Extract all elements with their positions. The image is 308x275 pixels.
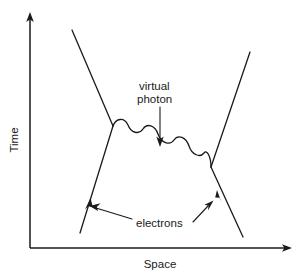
space-axis-label: Space — [144, 258, 177, 270]
electrons-annotation: electrons — [90, 201, 214, 230]
virtual-photon-line-group — [113, 119, 211, 167]
particle-lines-group — [72, 30, 250, 237]
electrons-leader-line-left — [96, 208, 132, 219]
virtual-photon-label-line2: photon — [137, 93, 172, 105]
fermion-direction-arrows — [85, 190, 222, 210]
electrons-label: electrons — [136, 217, 183, 229]
virtual-photon-wavy-line — [113, 119, 211, 167]
feynman-diagram-figure: virtual photon electrons Time Space — [0, 0, 308, 275]
time-axis-label: Time — [8, 127, 20, 152]
electron-line-outgoing-left — [80, 126, 113, 233]
electrons-leader-line-right — [193, 206, 208, 222]
axes-group — [26, 12, 292, 252]
virtual-photon-label-line1: virtual — [139, 80, 170, 92]
electron-line-incoming-left — [72, 30, 113, 126]
electron-direction-arrow-left — [85, 198, 93, 210]
electron-direction-arrow-right — [215, 190, 221, 203]
electron-line-outgoing-right — [211, 52, 250, 167]
electron-line-incoming-right — [211, 167, 243, 237]
diagram-canvas: virtual photon electrons Time Space — [0, 0, 308, 275]
virtual-photon-annotation: virtual photon — [137, 80, 172, 147]
